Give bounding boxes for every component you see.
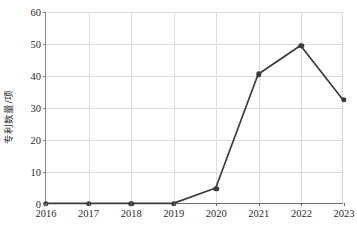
x-tick-mark <box>301 203 302 206</box>
x-tick-mark <box>89 203 90 206</box>
y-tick-label: 20 <box>31 135 42 146</box>
y-tick-label: 40 <box>31 71 42 82</box>
y-tick-label: 50 <box>31 39 42 50</box>
x-tick-label: 2022 <box>291 208 312 219</box>
x-tick-label: 2016 <box>36 208 57 219</box>
x-tick-mark <box>46 203 47 206</box>
x-tick-mark <box>344 203 345 206</box>
y-tick-mark <box>43 172 46 173</box>
x-tick-mark <box>131 203 132 206</box>
y-tick-mark <box>43 12 46 13</box>
y-tick-mark <box>43 140 46 141</box>
x-tick-mark <box>174 203 175 206</box>
plot-area: 0102030405060 20162017201820192020202120… <box>45 12 343 204</box>
y-tick-mark <box>43 76 46 77</box>
x-tick-mark <box>216 203 217 206</box>
x-tick-label: 2021 <box>248 208 269 219</box>
x-tick-label: 2018 <box>121 208 142 219</box>
x-tick-label: 2019 <box>163 208 184 219</box>
x-tick-label: 2017 <box>78 208 99 219</box>
x-tick-label: 2020 <box>206 208 227 219</box>
y-tick-mark <box>43 108 46 109</box>
y-tick-mark <box>43 44 46 45</box>
y-axis-title: 专利数量/项 <box>0 0 16 234</box>
patent-count-line-chart: 专利数量/项 0102030405060 2016201720182019202… <box>0 0 357 234</box>
y-tick-label: 10 <box>31 167 42 178</box>
series-line <box>46 12 343 203</box>
plot-wrapper: 0102030405060 20162017201820192020202120… <box>45 12 343 204</box>
x-tick-mark <box>259 203 260 206</box>
x-tick-label: 2023 <box>334 208 355 219</box>
y-tick-label: 60 <box>31 7 42 18</box>
y-tick-label: 30 <box>31 103 42 114</box>
data-point <box>341 97 346 102</box>
